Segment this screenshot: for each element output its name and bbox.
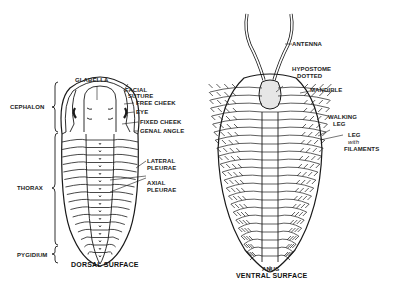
eye-label: EYE bbox=[136, 109, 148, 116]
leg-filaments-label-3: FILAMENTS bbox=[344, 146, 379, 153]
axial-pleurae-label-1: AXIAL bbox=[147, 180, 166, 187]
lateral-pleurae-label-1: LATERAL bbox=[147, 158, 175, 165]
pygidium-label: PYGIDIUM bbox=[17, 252, 47, 259]
leg-filaments-label-1: LEG bbox=[348, 132, 361, 139]
facial-suture-label-2: SUTURE bbox=[128, 93, 153, 100]
genal-angle-label: GENAL ANGLE bbox=[140, 128, 184, 135]
thorax-bracket bbox=[52, 133, 58, 245]
dorsal-trilobite-drawing bbox=[0, 0, 395, 292]
mandible-label: MANDIBLE bbox=[310, 87, 342, 94]
pygidium-bracket bbox=[52, 246, 58, 263]
hypostome-label-1: HYPOSTOME bbox=[292, 66, 331, 73]
walking-leg-label-1: WALKING bbox=[328, 114, 357, 121]
hypostome-label-2: DOTTED bbox=[297, 73, 322, 80]
glabella-label: GLABELLA bbox=[75, 77, 108, 84]
trilobite-anatomy-diagram: CEPHALON THORAX PYGIDIUM GLABELLA FACIAL… bbox=[0, 0, 395, 292]
dorsal-surface-caption: DORSAL SURFACE bbox=[71, 261, 139, 268]
fixed-cheek-label: FIXED CHEEK bbox=[140, 119, 181, 126]
walking-leg-label-2: LEG bbox=[333, 121, 346, 128]
leg-filaments-label-2: with bbox=[348, 139, 359, 146]
lateral-pleurae-label-2: PLEURAE bbox=[147, 165, 176, 172]
cephalon-bracket bbox=[52, 82, 58, 132]
axial-pleurae-label-2: PLEURAE bbox=[147, 187, 176, 194]
ventral-surface-caption: VENTRAL SURFACE bbox=[236, 272, 307, 279]
antenna-label: ANTENNA bbox=[292, 41, 322, 48]
thorax-label: THORAX bbox=[17, 185, 43, 192]
free-cheek-label: FREE CHEEK bbox=[136, 100, 176, 107]
cephalon-label: CEPHALON bbox=[10, 104, 44, 111]
